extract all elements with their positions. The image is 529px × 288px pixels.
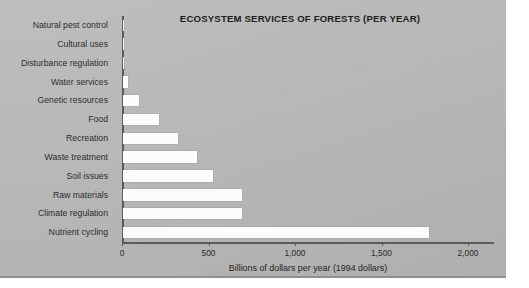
category-label: Genetic resources	[0, 95, 116, 105]
bar-row	[122, 186, 486, 205]
category-label: Soil issues	[0, 171, 116, 181]
bar	[123, 189, 242, 201]
bar	[123, 95, 139, 107]
x-tick-label: 0	[120, 248, 125, 258]
category-label: Water services	[0, 77, 116, 87]
x-axis-line	[122, 242, 494, 244]
plot-area	[122, 16, 486, 242]
bar	[123, 76, 128, 88]
bar-row	[122, 223, 486, 242]
category-label: Climate regulation	[0, 208, 116, 218]
category-label: Waste treatment	[0, 152, 116, 162]
category-label: Food	[0, 114, 116, 124]
bar-row	[122, 167, 486, 186]
bar	[123, 133, 178, 145]
bar-row	[122, 204, 486, 223]
bar	[123, 38, 124, 50]
x-tick-label: 2,000	[458, 248, 479, 258]
bar	[123, 114, 159, 126]
category-label: Disturbance regulation	[0, 58, 116, 68]
category-label: Cultural uses	[0, 39, 116, 49]
x-tick-mark	[122, 242, 123, 246]
category-label: Raw materials	[0, 190, 116, 200]
bar	[123, 208, 242, 220]
bar-row	[122, 73, 486, 92]
x-tick-mark	[382, 242, 383, 246]
chart-page-background: ECOSYSTEM SERVICES OF FORESTS (PER YEAR)…	[0, 0, 506, 278]
category-label: Natural pest control	[0, 20, 116, 30]
bar-row	[122, 91, 486, 110]
bar-row	[122, 35, 486, 54]
x-tick-mark	[295, 242, 296, 246]
bar-row	[122, 16, 486, 35]
x-axis-title: Billions of dollars per year (1994 dolla…	[122, 263, 494, 273]
bar	[123, 170, 213, 182]
chart-figure: ECOSYSTEM SERVICES OF FORESTS (PER YEAR)…	[0, 0, 529, 288]
bar	[123, 227, 429, 239]
x-tick-label: 1,000	[285, 248, 306, 258]
bar-row	[122, 148, 486, 167]
bar	[123, 151, 197, 163]
bar-row	[122, 129, 486, 148]
x-tick-mark	[468, 242, 469, 246]
x-tick-label: 500	[202, 248, 216, 258]
bar	[123, 20, 124, 32]
x-tick-mark	[209, 242, 210, 246]
bar-row	[122, 110, 486, 129]
category-axis-labels: Natural pest controlCultural usesDisturb…	[0, 16, 116, 242]
category-label: Recreation	[0, 133, 116, 143]
bar	[123, 57, 124, 69]
x-tick-label: 1,500	[371, 248, 392, 258]
category-label: Nutrient cycling	[0, 227, 116, 237]
bar-row	[122, 54, 486, 73]
